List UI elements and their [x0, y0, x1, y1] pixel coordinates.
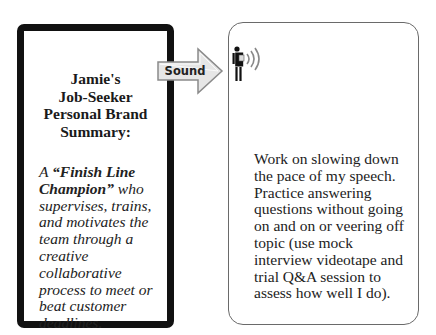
summary-rest: who supervises, trains, and motivates th… — [39, 180, 153, 331]
title-line: Summary: — [24, 123, 167, 141]
brand-summary-card: Jamie's Job-Seeker Personal Brand Summar… — [17, 24, 174, 328]
title-line: Personal Brand — [24, 105, 167, 123]
summary-prefix: A — [39, 163, 52, 180]
brand-summary-text: A “Finish Line Champion” who supervises,… — [39, 164, 163, 332]
arrow-label: Sound — [159, 62, 211, 80]
improvement-text: Work on slowing down the pace of my spee… — [254, 151, 412, 302]
brand-summary-title: Jamie's Job-Seeker Personal Brand Summar… — [24, 70, 167, 140]
title-line: Job-Seeker — [24, 88, 167, 106]
title-line: Jamie's — [24, 70, 167, 88]
person-speaking-icon — [232, 45, 272, 83]
